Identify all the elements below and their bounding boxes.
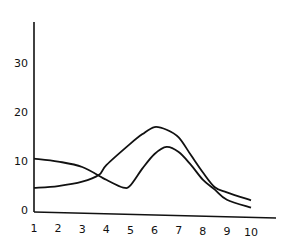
y-tick-label: 20 [14,106,28,119]
x-tick-label: 3 [79,223,86,236]
x-tick-label: 6 [151,224,158,237]
x-tick-label: 5 [127,224,134,237]
y-tick-label: 30 [14,57,28,70]
x-tick-label: 8 [199,225,206,238]
y-tick-labels: 0102030 [14,57,28,217]
line-chart: 0102030 12345678910 [0,0,293,244]
y-tick-label: 10 [14,155,28,168]
series-lines [34,127,251,208]
x-tick-label: 7 [175,224,182,237]
x-tick-label: 9 [223,225,230,238]
x-tick-label: 2 [55,222,62,235]
curve-a-line [34,147,251,208]
y-tick-label: 0 [21,204,28,217]
x-axis [34,212,276,218]
x-tick-labels: 12345678910 [31,222,259,239]
x-tick-label: 1 [31,222,38,235]
x-tick-label: 10 [244,226,258,239]
x-tick-label: 4 [103,223,110,236]
